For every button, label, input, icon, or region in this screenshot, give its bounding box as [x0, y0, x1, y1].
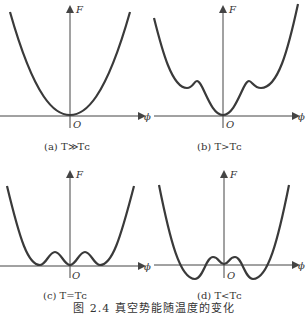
f-label: F: [229, 169, 238, 180]
panel-a-caption: (a) T≫Tᴄ: [44, 141, 90, 152]
f-label: F: [75, 4, 84, 15]
panel-b-caption: (b) T>Tᴄ: [197, 141, 242, 152]
origin-label: O: [226, 119, 234, 130]
origin-label: O: [73, 119, 81, 130]
panel-a: F ϕ O: [0, 4, 151, 130]
phi-label: ϕ: [144, 111, 151, 122]
origin-label: O: [72, 270, 80, 281]
panel-d: F ϕ O: [154, 169, 305, 281]
potential-diagram: F ϕ O F ϕ O F ϕ O F ϕ O: [0, 0, 308, 316]
phi-label: ϕ: [298, 111, 305, 122]
origin-label: O: [227, 270, 235, 281]
phi-label: ϕ: [144, 261, 151, 272]
panel-c: F ϕ O: [0, 169, 151, 281]
panel-b: F ϕ O: [154, 4, 305, 130]
f-label: F: [228, 4, 237, 15]
phi-label: ϕ: [298, 260, 305, 271]
potential-curve-b: [154, 4, 298, 115]
f-label: F: [75, 169, 84, 180]
figure-caption: 图 2.4 真空势能随温度的变化: [0, 299, 308, 315]
